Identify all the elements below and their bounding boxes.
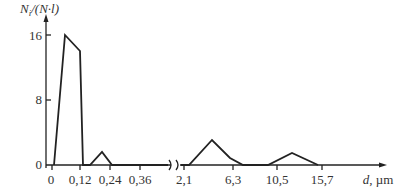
x-tick-label-024: 0,24: [99, 172, 122, 187]
x-tick-label-63: 6,3: [225, 172, 241, 187]
data-series-line: [54, 35, 168, 165]
y-tick-label-0: 0: [36, 157, 43, 172]
axis-break-right-icon: [176, 160, 178, 170]
y-tick-label-8: 8: [36, 92, 43, 107]
y-axis-title: Ni/(N·l): [19, 1, 59, 18]
x-tick-label-105: 10,5: [266, 172, 289, 187]
chart: Ni/(N·l) 16 8 0 0 0,12 0,24 0,36 2,1 6,3…: [0, 0, 419, 192]
y-tick-label-16: 16: [29, 28, 43, 43]
x-tick-label-21: 2,1: [176, 172, 192, 187]
x-tick-label-157: 15,7: [311, 172, 334, 187]
x-axis-title: d, µm: [363, 172, 394, 187]
x-tick-label-036: 0,36: [129, 172, 152, 187]
data-series-line-right: [181, 140, 318, 165]
x-tick-label-012: 0,12: [69, 172, 92, 187]
x-tick-label-0: 0: [48, 172, 55, 187]
x-axis-arrow-icon: [379, 163, 387, 168]
